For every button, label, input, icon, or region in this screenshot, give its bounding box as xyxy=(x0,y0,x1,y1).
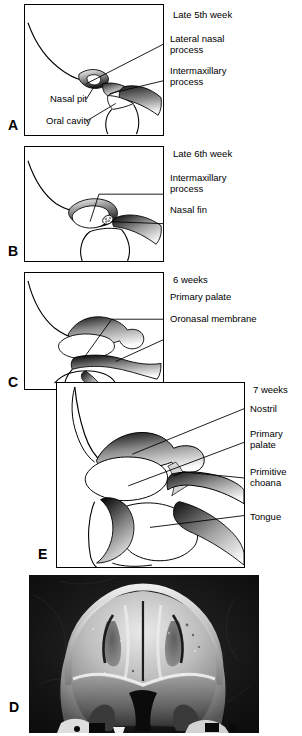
panel-e-7-weeks xyxy=(56,382,245,568)
panel-c-stage-label: 6 weeks xyxy=(173,274,208,285)
panel-b-late-6th-week xyxy=(24,146,164,262)
panel-letter-e: E xyxy=(38,547,47,561)
panel-c-drawing xyxy=(25,273,163,389)
panel-c-6-weeks xyxy=(24,272,164,390)
panel-b-drawing xyxy=(25,147,163,261)
panel-a-late-5th-week xyxy=(24,4,164,136)
panel-d-scanning-electron-micrograph xyxy=(29,575,259,733)
panel-letter-b: B xyxy=(8,244,18,258)
label-tongue-e: Tongue xyxy=(250,511,281,522)
label-lateral-nasal-process-a: Lateral nasal process xyxy=(170,33,224,55)
label-primary-palate-c: Primary palate xyxy=(170,291,231,302)
label-oronasal-membrane-c: Oronasal membrane xyxy=(170,313,257,324)
label-primitive-choana-e: Primitive choana xyxy=(250,466,286,488)
panel-letter-c: C xyxy=(8,375,18,389)
leader-nasal-pit xyxy=(86,87,94,100)
label-nasal-fin-b: Nasal fin xyxy=(170,204,207,215)
label-intermaxillary-process-a: Intermaxillary process xyxy=(170,65,227,87)
panel-b-stage-label: Late 6th week xyxy=(173,148,232,159)
label-nostril-e: Nostril xyxy=(250,403,277,414)
panel-a-stage-label: Late 5th week xyxy=(173,9,232,20)
panel-letter-a: A xyxy=(8,118,18,132)
label-primary-palate-e: Primary palate xyxy=(250,428,283,450)
label-intermaxillary-process-b: Intermaxillary process xyxy=(170,172,227,194)
panel-letter-d: D xyxy=(9,700,19,714)
label-nasal-pit-a: Nasal pit xyxy=(50,93,87,104)
panel-e-stage-label: 7 weeks xyxy=(253,384,288,395)
figure-embryonic-palate-development: A Late 5th week Lateral nasal process In… xyxy=(0,0,302,736)
label-oral-cavity-a: Oral cavity xyxy=(46,115,91,126)
panel-e-drawing xyxy=(57,383,244,567)
leader-lateral-nasal-process xyxy=(86,44,163,83)
panel-d-micrograph xyxy=(29,575,259,733)
